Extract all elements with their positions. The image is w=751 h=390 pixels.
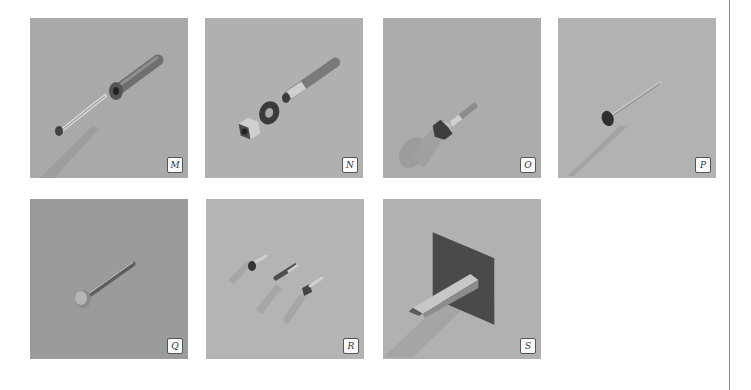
panel-label-n: N <box>342 157 358 173</box>
page-divider <box>729 0 730 390</box>
panel-label-r: R <box>343 338 359 354</box>
panel-n: N <box>205 18 363 178</box>
screw-anchor-illustration <box>30 18 188 178</box>
large-nail-illustration <box>30 199 188 359</box>
panel-label-o: O <box>520 157 536 173</box>
nail-illustration <box>558 18 716 178</box>
panel-p: P <box>558 18 716 178</box>
panel-label-s: S <box>520 338 536 354</box>
panel-q: Q <box>30 199 188 359</box>
nut-washer-anchor-illustration <box>205 18 363 178</box>
panel-m: M <box>30 18 188 178</box>
peg-plate-illustration <box>383 199 541 359</box>
panel-label-q: Q <box>167 338 183 354</box>
hex-bolt-illustration <box>383 18 541 178</box>
panel-o: O <box>383 18 541 178</box>
panel-r: R <box>206 199 364 359</box>
panel-label-p: P <box>695 157 711 173</box>
panel-s: S <box>383 199 541 359</box>
panel-label-m: M <box>167 157 183 173</box>
three-screws-illustration <box>206 199 364 359</box>
